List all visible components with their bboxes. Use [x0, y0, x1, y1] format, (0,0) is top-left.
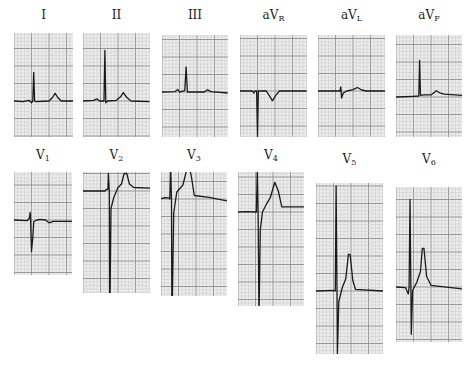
lead-label-V5: V5 — [316, 152, 383, 167]
grid-paper — [240, 35, 307, 137]
lead-label-V4: V4 — [238, 148, 304, 163]
lead-label-II: II — [83, 8, 150, 23]
ecg-strip-aVF — [396, 35, 462, 137]
ecg-strip-V1 — [14, 172, 72, 275]
lead-label-aVF: aVF — [396, 8, 462, 23]
lead-label-III: III — [162, 8, 228, 23]
lead-label-V6: V6 — [396, 152, 462, 167]
ecg-strip-aVL — [318, 35, 385, 137]
lead-label-V3: V3 — [161, 148, 227, 163]
ecg-strip-V5 — [316, 183, 383, 354]
ecg-strip-V4 — [238, 172, 304, 306]
ecg-strip-aVR — [240, 35, 307, 137]
lead-label-aVR: aVR — [240, 8, 307, 23]
ecg-strip-I — [14, 33, 73, 137]
lead-label-I: I — [14, 8, 73, 23]
ecg-strip-II — [83, 33, 150, 137]
grid-paper — [318, 35, 385, 137]
ecg-strip-V6 — [396, 187, 462, 342]
lead-label-V2: V2 — [83, 148, 150, 163]
ecg-strip-III — [162, 35, 228, 137]
grid-paper — [316, 183, 383, 354]
ecg-strip-V2 — [83, 172, 150, 293]
lead-label-V1: V1 — [14, 148, 72, 163]
lead-label-aVL: aVL — [318, 8, 385, 23]
ecg-strip-V3 — [161, 172, 227, 296]
